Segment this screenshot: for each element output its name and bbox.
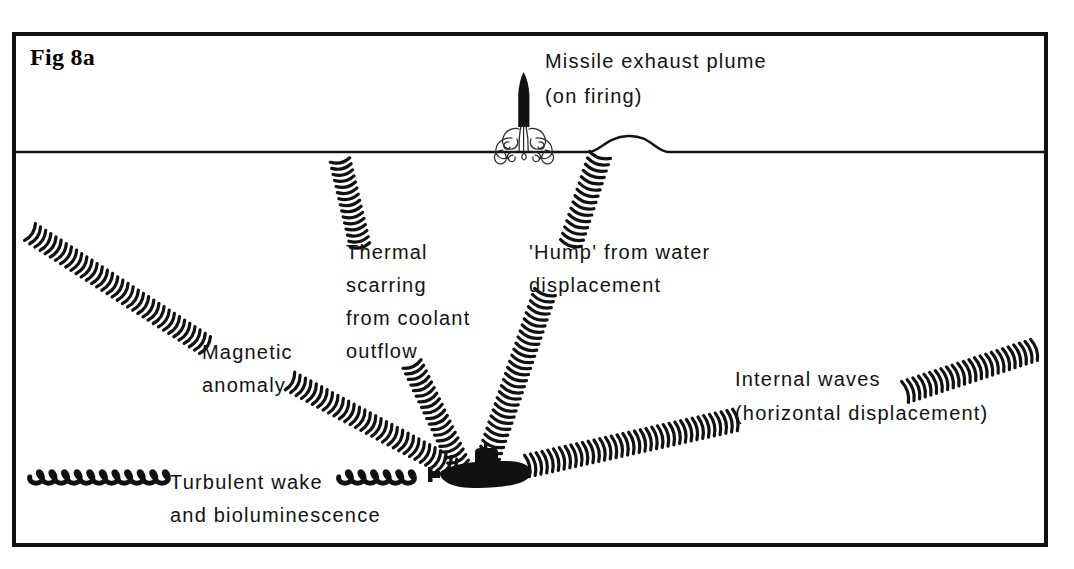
label-turbulent-wake-line1: Turbulent wake <box>170 465 323 500</box>
label-thermal-scarring-line1: Thermal <box>346 235 428 270</box>
hump-band-lower <box>477 288 556 465</box>
label-missile-exhaust-plume-line2: (on firing) <box>545 79 643 114</box>
label-internal-waves-line2: (horizontal displacement) <box>735 396 988 431</box>
label-magnetic-anomaly-line1: Magnetic <box>202 335 293 370</box>
label-hump-line1: 'Hump' from water <box>529 235 710 270</box>
exhaust-plume-icon <box>494 126 553 164</box>
label-turbulent-wake-line2: and bioluminescence <box>170 498 381 533</box>
figure-id-label: Fig 8a <box>30 44 95 71</box>
figure-root: Fig 8a Missile exhaust plume (on firing)… <box>0 0 1074 569</box>
turbulent-wake-coil-left <box>30 472 169 483</box>
label-thermal-scarring-line2: scarring <box>346 268 427 303</box>
missile-icon <box>518 72 529 127</box>
label-thermal-scarring-line3: from coolant <box>346 301 470 336</box>
hump-band-upper <box>561 152 611 247</box>
internal-waves-band-upper <box>902 340 1038 403</box>
label-magnetic-anomaly-line2: anomaly <box>202 368 286 403</box>
turbulent-wake-coil-right <box>339 472 415 483</box>
label-internal-waves-line1: Internal waves <box>735 362 881 397</box>
internal-waves-band-lower <box>525 409 738 476</box>
label-hump-line2: displacement <box>529 268 661 303</box>
label-thermal-scarring-line4: outflow <box>346 334 418 369</box>
thermal-scarring-band-lower <box>403 360 471 475</box>
surface-hump <box>588 136 668 152</box>
label-missile-exhaust-plume-line1: Missile exhaust plume <box>545 44 767 79</box>
